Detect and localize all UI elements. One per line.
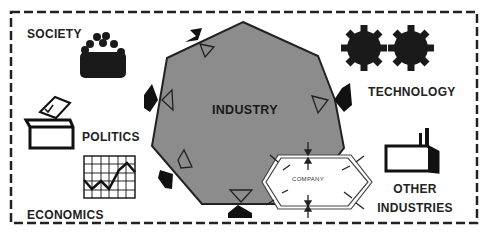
gears-icon	[341, 25, 434, 71]
factory-icon	[386, 128, 438, 172]
other-industries-label-line2: INDUSTRIES	[370, 201, 460, 215]
ballot-box-icon	[26, 97, 73, 148]
society-label: SOCIETY	[27, 27, 82, 41]
other-industries-label-line1: OTHER	[385, 182, 445, 196]
crowd-icon	[80, 32, 126, 78]
technology-label: TECHNOLOGY	[368, 85, 456, 99]
line-chart-icon	[84, 156, 135, 198]
company-label: COMPANY	[292, 176, 324, 182]
industry-label: INDUSTRY	[212, 103, 278, 117]
politics-label: POLITICS	[82, 130, 140, 144]
economics-label: ECONOMICS	[27, 208, 104, 222]
company-hexagon	[262, 155, 372, 209]
